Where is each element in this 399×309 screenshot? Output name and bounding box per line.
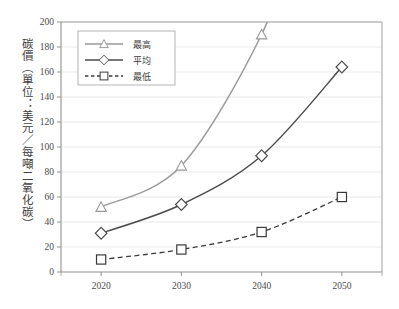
legend-label: 平均 <box>133 55 151 66</box>
y-tick-label: 40 <box>45 217 55 227</box>
legend-label: 最低 <box>133 71 151 82</box>
data-point-marker <box>177 245 186 254</box>
y-tick-label: 200 <box>40 17 55 27</box>
y-axis-ticks: 020406080100120140160180200 <box>40 17 61 277</box>
x-tick-label: 2020 <box>92 281 111 291</box>
legend-box <box>78 31 175 85</box>
y-tick-label: 180 <box>40 42 55 52</box>
x-axis-ticks: 2020203020402050 <box>61 272 382 291</box>
y-tick-label: 60 <box>45 192 55 202</box>
y-tick-label: 160 <box>40 67 55 77</box>
chart-legend: 最高平均最低 <box>78 31 175 85</box>
y-tick-label: 120 <box>40 117 55 127</box>
x-tick-label: 2050 <box>332 281 351 291</box>
square-icon <box>100 72 108 80</box>
y-tick-label: 80 <box>45 167 55 177</box>
legend-label: 最高 <box>133 39 151 50</box>
data-point-marker <box>97 255 106 264</box>
y-tick-label: 20 <box>45 242 55 252</box>
data-point-marker <box>337 192 346 201</box>
x-tick-label: 2030 <box>172 281 191 291</box>
data-point-marker <box>257 227 266 236</box>
y-tick-label: 140 <box>40 92 55 102</box>
carbon-price-chart: 碳價（單位：美元／每噸二氧化碳） 02040608010012014016018… <box>0 0 399 309</box>
chart-canvas: 020406080100120140160180200 202020302040… <box>0 0 399 309</box>
y-tick-label: 100 <box>40 142 55 152</box>
x-tick-label: 2040 <box>252 281 271 291</box>
y-tick-label: 0 <box>49 267 54 277</box>
